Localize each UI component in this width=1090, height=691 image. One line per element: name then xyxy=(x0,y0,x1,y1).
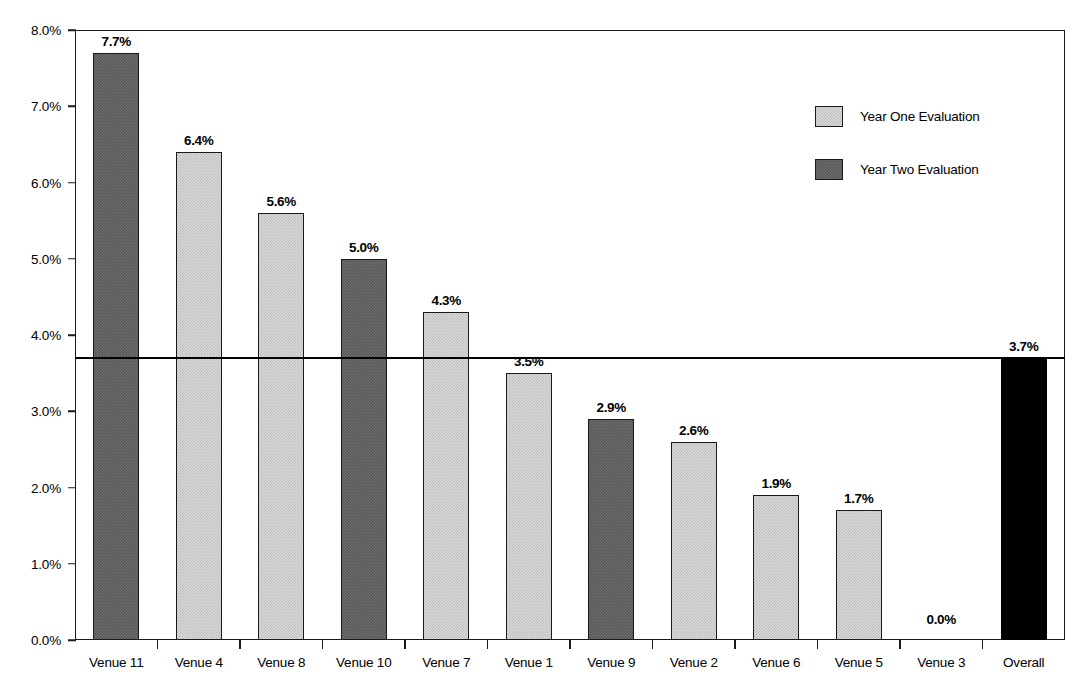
legend-label-year-two: Year Two Evaluation xyxy=(860,162,979,177)
bars-layer: 7.7%6.4%5.6%5.0%4.3%3.5%2.9%2.6%1.9%1.7%… xyxy=(0,0,1090,691)
bar-value-label: 6.4% xyxy=(184,133,214,148)
bar-value-label: 0.0% xyxy=(926,612,956,627)
legend: Year One Evaluation Year Two Evaluation xyxy=(815,105,980,211)
bar-chart: 0.0%1.0%2.0%3.0%4.0%5.0%6.0%7.0%8.0% Ven… xyxy=(0,0,1090,691)
bar-value-label: 5.0% xyxy=(349,240,379,255)
bar-value-label: 4.3% xyxy=(431,293,461,308)
bar-value-label: 2.9% xyxy=(596,400,626,415)
bar-value-label: 1.7% xyxy=(844,491,874,506)
bar-value-label: 3.7% xyxy=(1009,339,1039,354)
bar[interactable] xyxy=(753,495,799,640)
bar[interactable] xyxy=(423,312,469,640)
reference-line xyxy=(75,357,1065,360)
bar-value-label: 7.7% xyxy=(101,34,131,49)
bar-value-label: 2.6% xyxy=(679,423,709,438)
bar-value-label: 5.6% xyxy=(266,194,296,209)
legend-swatch-year-two-icon xyxy=(815,159,843,180)
legend-item-year-one[interactable]: Year One Evaluation xyxy=(815,105,980,127)
legend-item-year-two[interactable]: Year Two Evaluation xyxy=(815,158,980,180)
bar[interactable] xyxy=(176,152,222,640)
bar-value-label: 1.9% xyxy=(761,476,791,491)
bar[interactable] xyxy=(671,442,717,640)
bar[interactable] xyxy=(258,213,304,640)
bar[interactable] xyxy=(506,373,552,640)
bar[interactable] xyxy=(341,259,387,640)
bar[interactable] xyxy=(588,419,634,640)
bar[interactable] xyxy=(1001,358,1047,640)
bar[interactable] xyxy=(93,53,139,640)
legend-swatch-year-one-icon xyxy=(815,106,843,127)
bar[interactable] xyxy=(836,510,882,640)
legend-label-year-one: Year One Evaluation xyxy=(860,109,980,124)
